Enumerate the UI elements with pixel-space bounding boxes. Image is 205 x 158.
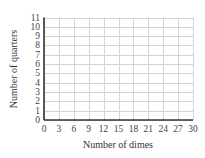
y-tick-label: 6 (35, 59, 40, 69)
y-tick-label: 7 (35, 50, 40, 60)
y-tick-label: 10 (31, 22, 41, 32)
x-tick-label: 24 (158, 124, 168, 134)
y-tick-label: 11 (31, 13, 40, 23)
x-axis-label: Number of dimes (83, 139, 153, 150)
x-tick-label: 27 (173, 124, 183, 134)
y-tick-label: 8 (35, 40, 40, 50)
grid-lines (44, 18, 194, 121)
y-tick-label: 2 (35, 96, 40, 106)
y-tick-label: 1 (35, 106, 40, 116)
x-tick-label: 6 (71, 124, 76, 134)
y-tick-label: 5 (35, 68, 40, 78)
axes (44, 18, 193, 121)
blank-coordinate-grid: 036912151821242730 01234567891011 Number… (0, 0, 205, 158)
y-tick-label: 9 (35, 31, 40, 41)
y-tick-label: 3 (35, 87, 40, 97)
x-tick-label: 21 (144, 124, 154, 134)
x-tick-label: 3 (57, 124, 62, 134)
y-tick-labels: 01234567891011 (31, 13, 41, 126)
x-tick-label: 0 (42, 124, 47, 134)
y-tick-label: 0 (35, 115, 40, 125)
x-tick-label: 12 (99, 124, 109, 134)
x-tick-label: 30 (188, 124, 198, 134)
x-tick-labels: 036912151821242730 (42, 124, 198, 134)
y-tick-label: 4 (35, 78, 40, 88)
y-axis-label: Number of quarters (8, 30, 19, 108)
x-tick-label: 15 (114, 124, 124, 134)
x-tick-label: 9 (86, 124, 91, 134)
x-tick-label: 18 (129, 124, 139, 134)
